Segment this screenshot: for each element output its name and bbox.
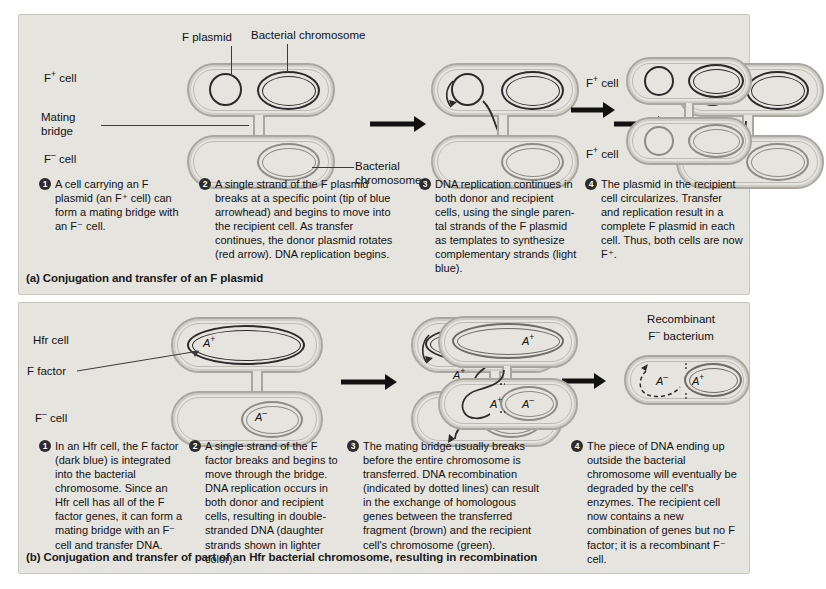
- label-mating-bridge-line2: bridge: [41, 125, 73, 138]
- step-text: A cell carrying an F plasmid (an F⁺ cell…: [55, 177, 189, 233]
- label-f-plasmid: F plasmid: [182, 31, 232, 44]
- label-f-minus-cell-stage1: F– cell: [44, 151, 76, 166]
- gene-a-minus-stage3: A–: [522, 395, 534, 410]
- leader-f-plasmid: [231, 46, 232, 74]
- result-plasmid-bottom: [644, 126, 674, 156]
- step-number: 3: [419, 178, 431, 190]
- step-number: 1: [39, 178, 51, 190]
- result-plasmid-top: [644, 66, 674, 96]
- panel-a-step-4: 4 The plasmid in the recipient cell circ…: [585, 177, 743, 261]
- label-mating-bridge-line1: Mating: [41, 111, 76, 124]
- gene-a-plus-donor-stage3: A+: [522, 332, 534, 347]
- leader-f-factor: [59, 343, 259, 393]
- panel-a-step-2: 2 A single strand of the F plasmid break…: [199, 177, 397, 261]
- step-text: The mating bridge usually breaks before …: [363, 439, 545, 552]
- label-recombinant-bacterium: Recombinant F– bacterium: [614, 313, 748, 343]
- recipient-chromosome-b-stage1: [241, 401, 303, 438]
- panel-b-step-2: 2 A single strand of the F factor breaks…: [189, 439, 341, 566]
- step-text: DNA replication continues in both donor …: [435, 177, 579, 276]
- mating-bridge-stage1: [253, 115, 265, 137]
- panel-b-step-3: 3 The mating bridge usually breaks befor…: [347, 439, 545, 552]
- transferred-fragment-stage3: [438, 378, 588, 438]
- step-number: 4: [571, 440, 583, 452]
- gene-a-minus-stage1: A–: [255, 408, 267, 423]
- bacterial-chromosome-donor-stage3: [746, 71, 809, 110]
- step-text: A single strand of the F factor breaks a…: [205, 439, 341, 566]
- gene-a-plus-recombinant: A+: [692, 372, 704, 387]
- gene-a-plus-recipient-stage3: A+: [490, 395, 502, 410]
- step-text: The plasmid in the recipient cell circul…: [601, 177, 743, 261]
- label-hfr-cell: Hfr cell: [33, 334, 69, 347]
- mating-bridge-stage2: [497, 115, 509, 137]
- leader-bacterial-chromosome-bottom: [312, 167, 354, 168]
- step-number: 4: [585, 178, 597, 190]
- step-number: 3: [347, 440, 359, 452]
- gene-a-minus-recombinant: A–: [656, 372, 668, 387]
- result-chromosome-top: [688, 64, 744, 98]
- panel-a-step-3: 3 DNA replication continues in both dono…: [419, 177, 579, 276]
- step-number: 1: [39, 440, 51, 452]
- label-f-minus-cell-b: F– cell: [35, 410, 67, 425]
- label-bacterial-chromosome-top: Bacterial chromosome: [251, 29, 365, 42]
- label-f-plus-cell-result-bottom: F+ cell: [586, 146, 618, 161]
- panel-b-step-1: 1 In an Hfr cell, the F factor (dark blu…: [39, 439, 185, 552]
- bacterial-chromosome-donor-stage2: [501, 71, 564, 110]
- bacterial-chromosome-recipient-stage1: [257, 143, 320, 181]
- degraded-dna-fragment: [624, 355, 754, 415]
- bacterial-chromosome-donor-stage1: [257, 71, 320, 110]
- panel-b-caption: (b) Conjugation and transfer of part of …: [26, 551, 537, 563]
- label-f-plus-cell-result-top: F+ cell: [586, 75, 618, 90]
- panel-a-step-1: 1 A cell carrying an F plasmid (an F⁺ ce…: [39, 177, 189, 233]
- step-number: 2: [199, 178, 211, 190]
- result-chromosome-bottom: [688, 124, 744, 158]
- panel-a-caption: (a) Conjugation and transfer of an F pla…: [26, 272, 263, 284]
- step-text: The piece of DNA ending up outside the b…: [587, 439, 741, 566]
- step-number: 2: [189, 440, 201, 452]
- hfr-chromosome-stage3: [452, 323, 564, 359]
- step-text: In an Hfr cell, the F factor (dark blue)…: [55, 439, 185, 552]
- bacterial-chromosome-recipient-stage2: [501, 143, 564, 181]
- label-f-factor: F factor: [27, 365, 66, 378]
- step-text: A single strand of the F plasmid breaks …: [215, 177, 397, 261]
- leader-mating-bridge: [101, 125, 249, 126]
- leader-bacterial-chromosome-top: [287, 44, 288, 72]
- label-bacterial-chromosome-bottom-line1: Bacterial: [355, 160, 400, 173]
- f-plasmid-ring-stage1: [209, 73, 242, 106]
- label-f-plus-cell-stage1: F+ cell: [44, 70, 76, 85]
- panel-b-step-4: 4 The piece of DNA ending up outside the…: [571, 439, 741, 566]
